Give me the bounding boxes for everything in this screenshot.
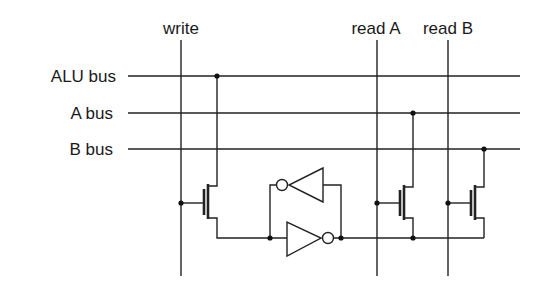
read-a-source-junction (410, 235, 415, 240)
write-label: write (162, 19, 199, 38)
read-b-label: read B (423, 19, 473, 38)
forward-inverter-bubble (323, 233, 334, 244)
alu-bus-label: ALU bus (51, 67, 116, 86)
read-a-label: read A (351, 19, 401, 38)
b-bus-label: B bus (70, 140, 113, 159)
a-bus-label: A bus (70, 104, 113, 123)
read-a-transistor (374, 110, 415, 240)
forward-inverter (287, 222, 321, 256)
write-transistor (178, 73, 270, 238)
a-bus-junction (410, 110, 415, 115)
latch-input-junction (267, 235, 272, 240)
feedback-inverter-bubble (277, 180, 288, 191)
read-b-transistor (445, 146, 486, 238)
read-b-gate-junction (445, 200, 450, 205)
feedback-inverter (289, 168, 323, 202)
latch-output-junction (338, 235, 343, 240)
alu-bus-junction (214, 73, 219, 78)
b-bus-junction (481, 146, 486, 151)
read-a-gate-junction (374, 200, 379, 205)
register-cell-diagram: write read A read B ALU bus A bus B bus (0, 0, 542, 286)
write-gate-junction (178, 200, 183, 205)
inverter-latch (267, 168, 484, 256)
